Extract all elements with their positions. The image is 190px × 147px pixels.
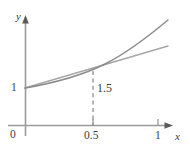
drop-line-value-label: 1.5 (97, 82, 112, 94)
exponential-curve (25, 20, 168, 88)
y-tick-label-1: 1 (11, 82, 17, 94)
x-axis-label: x (175, 131, 180, 142)
x-tick-label-1: 1 (155, 130, 161, 142)
x-tick-label-0.5: 0.5 (84, 130, 98, 142)
y-axis-arrowhead (22, 15, 29, 24)
origin-label: 0 (10, 129, 16, 141)
math-figure: y x 0 1 0.5 1 1.5 (0, 0, 190, 147)
y-axis-label: y (16, 11, 21, 22)
x-axis-arrowhead (165, 122, 174, 129)
figure-canvas (0, 0, 190, 147)
